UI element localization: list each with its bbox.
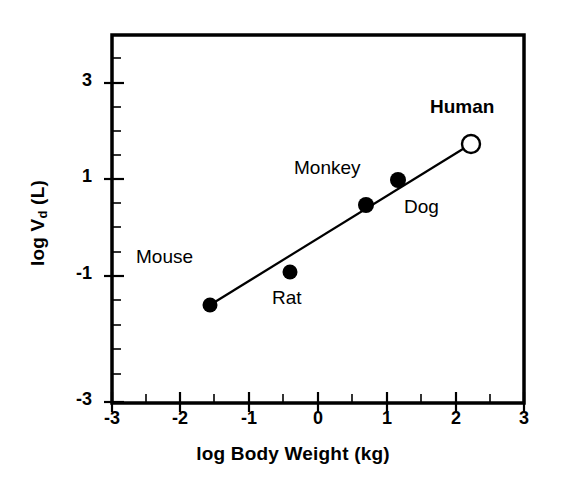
- y-axis-title-subscript: d: [35, 210, 50, 218]
- x-tick-label-2: 2: [436, 408, 476, 429]
- y-tick-label--1: -1: [52, 263, 92, 284]
- allometric-scatter-figure: -3 -2 -1 0 1 2 3 3 1 -1 -3 log Body Weig…: [0, 0, 586, 483]
- x-tick-label-0: 0: [298, 408, 338, 429]
- y-tick-label-3: 3: [52, 70, 92, 91]
- y-axis-title: log Vd (L): [27, 123, 49, 323]
- y-tick-label-1: 1: [52, 166, 92, 187]
- x-tick-label-3: 3: [504, 408, 544, 429]
- data-point-rat: [283, 265, 298, 280]
- point-label-rat: Rat: [272, 287, 302, 309]
- y-axis-title-main: log V: [27, 219, 48, 266]
- x-tick-label-1: 1: [367, 408, 407, 429]
- data-point-dog: [390, 172, 406, 188]
- x-axis-title: log Body Weight (kg): [0, 443, 586, 465]
- plot-frame: [112, 35, 524, 403]
- point-label-monkey: Monkey: [294, 157, 361, 179]
- point-label-dog: Dog: [404, 196, 439, 218]
- data-point-monkey: [358, 197, 374, 213]
- x-tick-label--2: -2: [160, 408, 200, 429]
- point-label-mouse: Mouse: [136, 246, 193, 268]
- data-point-mouse: [203, 298, 218, 313]
- x-tick-label--1: -1: [229, 408, 269, 429]
- y-axis-title-unit: (L): [27, 180, 48, 210]
- x-tick-label--3: -3: [92, 408, 132, 429]
- point-label-human: Human: [430, 96, 494, 118]
- y-tick-label--3: -3: [52, 389, 92, 410]
- data-point-human: [462, 135, 480, 153]
